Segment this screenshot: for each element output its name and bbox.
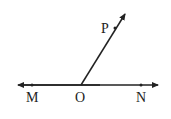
- label-o: O: [75, 90, 85, 105]
- label-n: N: [136, 90, 146, 105]
- label-p: P: [101, 21, 109, 36]
- point-m: [31, 84, 34, 87]
- label-m: M: [26, 90, 39, 105]
- geometry-diagram: M O N P: [0, 0, 171, 119]
- diagram-svg: M O N P: [0, 0, 171, 119]
- point-n: [140, 84, 143, 87]
- point-p: [114, 27, 117, 30]
